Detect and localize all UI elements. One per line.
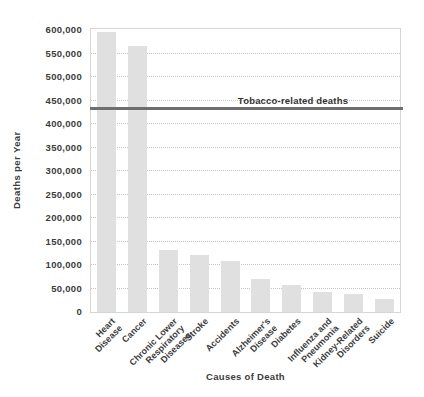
bar-1: [97, 32, 116, 312]
plot-area: Tobacco-related deaths: [90, 28, 401, 313]
bar-5: [221, 261, 240, 312]
y-tick-label: 0: [76, 307, 82, 317]
y-tick-label: 400,000: [46, 119, 82, 129]
x-axis-tick-labels: Heart DiseaseCancerChronic Lower Respira…: [90, 316, 401, 378]
x-tick-label: Heart Disease: [86, 316, 124, 354]
bar-3: [159, 250, 178, 312]
bar-2: [128, 46, 147, 312]
y-axis-tick-labels: 050,000100,000150,000200,000250,000300,0…: [0, 28, 86, 313]
bar-7: [282, 285, 301, 312]
bar-9: [344, 294, 363, 312]
x-axis-title: Causes of Death: [90, 371, 401, 382]
x-tick-label: Stroke: [183, 316, 210, 343]
bar-6: [251, 279, 270, 312]
y-tick-label: 150,000: [46, 237, 82, 247]
y-tick-label: 200,000: [46, 213, 82, 223]
bar-4: [190, 255, 209, 312]
y-tick-label: 100,000: [46, 260, 82, 270]
y-tick-label: 50,000: [51, 284, 82, 294]
y-tick-label: 600,000: [46, 25, 82, 35]
tobacco-reference-line: [90, 107, 403, 110]
y-tick-label: 500,000: [46, 72, 82, 82]
bar-chart-figure: Deaths per Year 050,000100,000150,000200…: [0, 0, 424, 397]
y-tick-label: 250,000: [46, 190, 82, 200]
bar-10: [375, 299, 394, 312]
y-tick-label: 450,000: [46, 96, 82, 106]
y-tick-label: 350,000: [46, 143, 82, 153]
bar-8: [313, 292, 332, 312]
y-tick-label: 550,000: [46, 49, 82, 59]
y-tick-label: 300,000: [46, 166, 82, 176]
tobacco-reference-label: Tobacco-related deaths: [208, 95, 378, 106]
